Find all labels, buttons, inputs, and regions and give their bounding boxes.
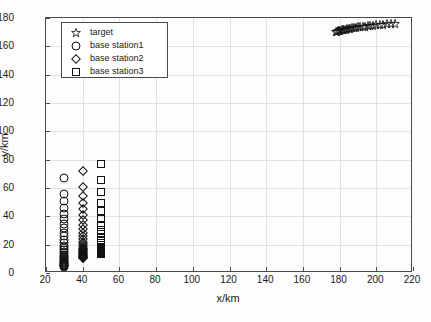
legend-label: target [90,26,113,39]
marker-square [97,199,105,207]
legend: targetbase station1base station2base sta… [61,22,168,78]
marker-square [97,221,105,229]
marker-square [97,188,105,196]
marker-square [97,248,105,256]
x-tick-label: 200 [367,274,384,285]
y-tick-label: 40 [3,210,14,221]
legend-marker-circle-icon [62,39,90,52]
x-axis-tick [413,267,414,271]
x-tick-label: 40 [76,274,87,285]
x-tick-label: 20 [39,274,50,285]
x-tick-label: 180 [330,274,347,285]
marker-square [97,226,105,234]
legend-marker-square-icon [62,65,90,78]
y-tick-label: 180 [0,12,14,23]
legend-item-target[interactable]: target [62,26,167,39]
marker-square [97,230,105,238]
y-axis-label: y/km [0,133,10,156]
x-tick-label: 60 [113,274,124,285]
legend-label: base station2 [90,52,144,65]
x-tick-label: 100 [183,274,200,285]
marker-square [97,246,105,254]
marker-square [97,243,105,251]
marker-square [97,241,105,249]
legend-item-base-station3[interactable]: base station3 [62,65,167,78]
marker-square [97,248,105,256]
legend-marker-diamond-icon [62,52,90,65]
x-tick-label: 140 [257,274,274,285]
marker-square [97,236,105,244]
x-tick-label: 120 [220,274,237,285]
marker-square [97,244,105,252]
marker-square [97,249,105,257]
x-tick-label: 80 [150,274,161,285]
y-tick-label: 60 [3,182,14,193]
marker-diamond [71,54,81,64]
marker-square [97,234,105,242]
marker-square [97,249,105,257]
y-tick-label: 120 [0,97,14,108]
marker-circle [72,42,81,51]
x-tick-label: 220 [404,274,421,285]
marker-square [97,176,105,184]
marker-square [97,239,105,247]
legend-label: base station1 [90,39,144,52]
marker-square [72,68,80,76]
scatter-plot-figure: 20406080100120140160180200220 0204060801… [0,0,431,322]
marker-square [97,160,105,168]
marker-square [97,247,105,255]
y-tick-label: 20 [3,238,14,249]
marker-square [97,250,105,258]
legend-marker-star-icon [62,26,90,39]
legend-label: base station3 [90,65,144,78]
legend-item-base-station2[interactable]: base station2 [62,52,167,65]
y-tick-label: 160 [0,40,14,51]
y-tick-label: 0 [8,267,14,278]
x-axis-label: x/km [216,292,239,304]
x-tick-label: 160 [294,274,311,285]
marker-square [97,215,105,223]
legend-item-base-station1[interactable]: base station1 [62,39,167,52]
marker-square [97,207,105,215]
marker-star [71,28,81,38]
marker-square [97,245,105,253]
y-tick-label: 140 [0,68,14,79]
marker-square [97,250,105,258]
